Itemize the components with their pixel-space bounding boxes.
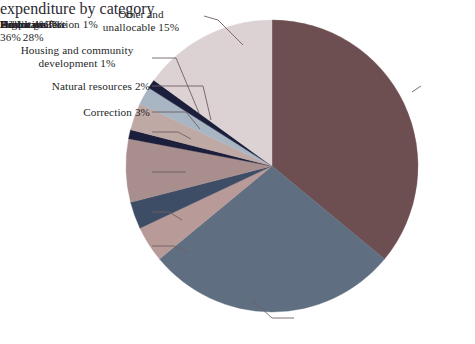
pie-slice-group: [126, 20, 418, 312]
slice-label-correction: Correction 3%: [4, 106, 150, 119]
slice-label-housing-and-community-development: Housing and community development 1%: [4, 44, 150, 70]
pie-chart-figure: expenditure by category Other and u: [0, 0, 475, 344]
slice-label-public-welfare: Public welfare 28%: [0, 18, 66, 44]
leader-line-education: [412, 86, 421, 92]
slice-label-natural-resources: Natural resources 2%: [4, 80, 150, 93]
